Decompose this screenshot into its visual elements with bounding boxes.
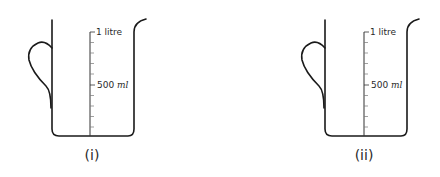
beaker-ii-scale [364, 32, 369, 136]
beaker-i: 1 litre 500 ml (i) [29, 19, 146, 163]
beaker-i-caption: (i) [85, 147, 100, 163]
beaker-i-1-litre-label: 1 litre [96, 27, 123, 37]
beaker-ii-caption: (ii) [355, 147, 374, 163]
beaker-i-scale [90, 32, 95, 136]
beaker-diagram: 1 litre 500 ml (i) 1 litre 500 ml (ii) [0, 0, 440, 177]
beaker-i-handle [29, 42, 52, 108]
beaker-ii-500-label: 500 ml [371, 80, 403, 90]
beaker-i-500-label: 500 ml [97, 80, 129, 90]
beaker-ii-handle [302, 42, 325, 108]
beaker-ii: 1 litre 500 ml (ii) [302, 19, 419, 163]
beaker-ii-1-litre-label: 1 litre [370, 27, 397, 37]
